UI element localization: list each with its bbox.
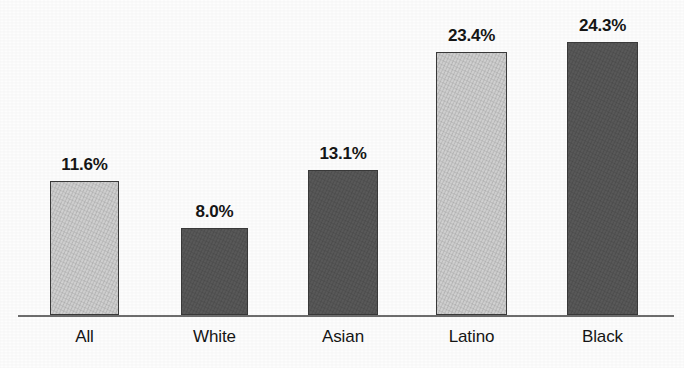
- value-label-all: 11.6%: [28, 155, 141, 175]
- category-label-white: White: [153, 327, 276, 347]
- value-label-black: 24.3%: [545, 16, 660, 36]
- bar-white: [181, 228, 248, 315]
- value-label-asian: 13.1%: [286, 144, 400, 164]
- bar-texture: [309, 171, 377, 314]
- category-label-asian: Asian: [280, 327, 406, 347]
- bar-texture: [437, 53, 506, 314]
- bar-texture: [182, 229, 247, 314]
- category-label-black: Black: [539, 327, 666, 347]
- x-axis-line: [18, 315, 674, 317]
- bar-chart: 11.6% All 8.0% White 13.1% Asian 23.4% L…: [0, 0, 684, 368]
- value-label-white: 8.0%: [159, 202, 270, 222]
- bar-all: [50, 181, 119, 315]
- bar-texture: [51, 182, 118, 314]
- bar-black: [567, 42, 638, 315]
- bar-latino: [436, 52, 507, 315]
- bar-asian: [308, 170, 378, 315]
- bar-texture: [568, 43, 637, 314]
- plot-area: 11.6% All 8.0% White 13.1% Asian 23.4% L…: [0, 0, 684, 368]
- value-label-latino: 23.4%: [414, 26, 529, 46]
- category-label-all: All: [22, 327, 147, 347]
- category-label-latino: Latino: [408, 327, 535, 347]
